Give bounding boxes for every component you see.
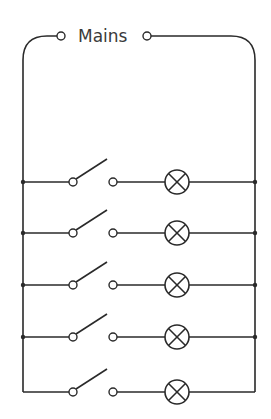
lamp-icon — [165, 170, 189, 194]
switch-contact — [109, 333, 117, 341]
branch-2 — [21, 210, 257, 245]
branch-3 — [21, 262, 257, 297]
branch-5 — [23, 369, 255, 404]
switch-contact — [109, 178, 117, 186]
switch-blade — [76, 210, 107, 230]
junction-node — [253, 231, 257, 235]
switch-blade — [76, 369, 107, 389]
switch-pivot — [69, 281, 77, 289]
switch-contact — [109, 388, 117, 396]
junction-node — [21, 231, 25, 235]
lamp-icon — [165, 221, 189, 245]
mains-label: Mains — [78, 26, 128, 46]
switch-contact — [109, 229, 117, 237]
switch-blade — [76, 159, 107, 179]
switch-pivot — [69, 229, 77, 237]
switch-contact — [109, 281, 117, 289]
switch-pivot — [69, 333, 77, 341]
switch-pivot — [69, 178, 77, 186]
lamp-icon — [165, 380, 189, 404]
junction-node — [253, 180, 257, 184]
switch-blade — [76, 314, 107, 334]
junction-node — [253, 335, 257, 339]
junction-node — [21, 180, 25, 184]
junction-node — [21, 283, 25, 287]
switch-blade — [76, 262, 107, 282]
lamp-icon — [165, 273, 189, 297]
circuit-diagram: Mains — [0, 0, 271, 419]
junction-node — [253, 283, 257, 287]
branch-4 — [21, 314, 257, 349]
mains-terminal-right — [143, 32, 151, 40]
switch-pivot — [69, 388, 77, 396]
mains-terminal-left — [57, 32, 65, 40]
junction-node — [21, 335, 25, 339]
branch-1 — [21, 159, 257, 194]
lamp-icon — [165, 325, 189, 349]
